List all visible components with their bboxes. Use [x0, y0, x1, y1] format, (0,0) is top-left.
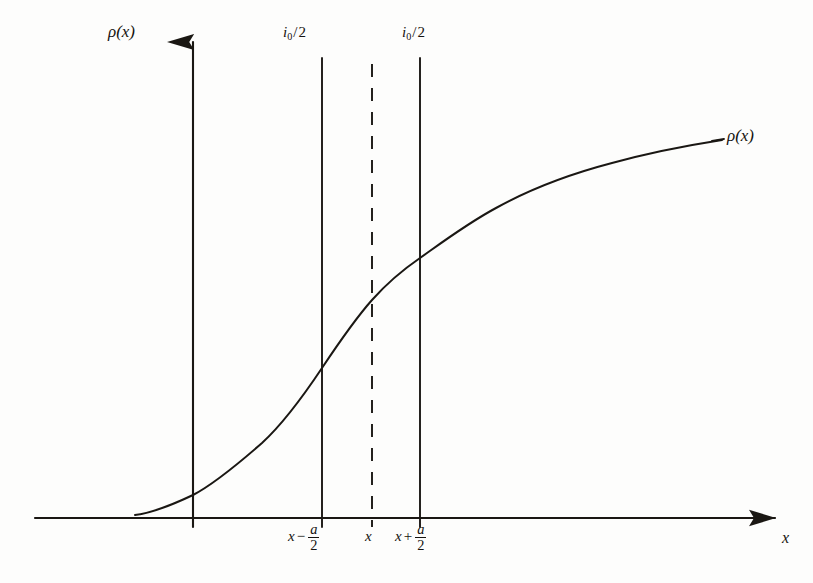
tick-left-fraction: a 2	[308, 522, 319, 552]
tick-right-numerator: a	[415, 522, 426, 538]
left-current-denominator: 2	[298, 24, 306, 40]
density-curve	[135, 140, 722, 515]
y-axis-label: ρ(x)	[108, 22, 135, 42]
tick-right-operator: +	[402, 528, 414, 544]
figure-container: ρ(x) ρ(x) x i0/2 i0/2 x− a 2 x x+ a 2	[0, 0, 813, 583]
right-current-line-label: i0/2	[402, 24, 425, 42]
x-tick-label-center: x	[365, 528, 372, 545]
tick-left-variable: x	[288, 528, 295, 544]
tick-right-variable: x	[395, 528, 402, 544]
left-current-line-label: i0/2	[283, 24, 306, 42]
tick-left-numerator: a	[308, 522, 319, 538]
right-current-denominator: 2	[417, 24, 425, 40]
x-axis-label: x	[782, 529, 789, 547]
tick-left-operator: −	[295, 528, 307, 544]
curve-label: ρ(x)	[727, 126, 754, 146]
x-tick-label-left: x− a 2	[288, 522, 320, 552]
tick-left-denominator: 2	[308, 538, 319, 553]
tick-right-fraction: a 2	[415, 522, 426, 552]
figure-drawing	[0, 0, 813, 583]
tick-right-denominator: 2	[415, 538, 426, 553]
x-tick-label-right: x+ a 2	[395, 522, 427, 552]
